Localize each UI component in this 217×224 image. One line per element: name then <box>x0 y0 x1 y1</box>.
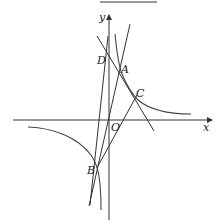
point-label-c: C <box>136 87 145 100</box>
point-label-a: A <box>120 63 129 76</box>
point-label-d: D <box>96 54 106 67</box>
y-axis-label: y <box>98 11 106 24</box>
coordinate-diagram: y x O D A C B <box>0 0 217 224</box>
origin-label: O <box>111 121 120 134</box>
point-label-b: B <box>86 164 95 177</box>
x-axis-label: x <box>203 121 210 134</box>
